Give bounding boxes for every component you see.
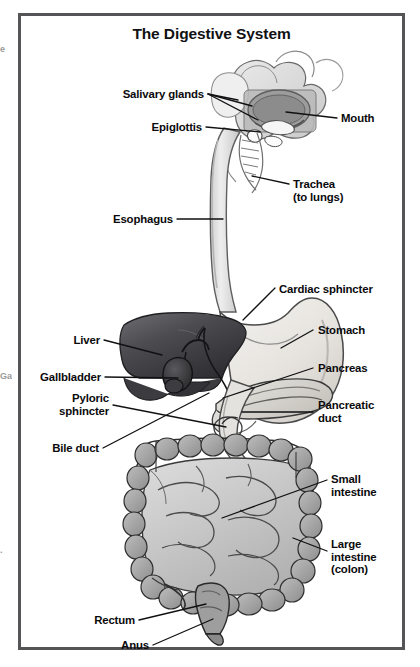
leader-cardiac-sphincter — [243, 288, 275, 320]
label-gallbladder: Gallbladder — [22, 371, 101, 384]
label-rectum: Rectum — [80, 614, 135, 627]
leader-anus — [153, 619, 213, 645]
label-stomach: Stomach — [318, 324, 388, 337]
digestive-system-figure: e Ga . The Digestive System — [0, 0, 420, 667]
label-trachea: Trachea (to lungs) — [293, 178, 377, 203]
label-epiglottis: Epiglottis — [116, 121, 202, 134]
label-anus: Anus — [110, 639, 149, 652]
label-salivary-glands: Salivary glands — [96, 88, 204, 101]
organ-small-intestine — [142, 458, 315, 595]
organ-rectum — [195, 583, 229, 634]
label-pancreatic-duct: Pancreatic duct — [318, 399, 400, 424]
label-pancreas: Pancreas — [318, 362, 390, 375]
label-small-intestine: Small intestine — [331, 473, 407, 498]
label-esophagus: Esophagus — [95, 213, 173, 226]
label-large-intestine: Large intestine (colon) — [331, 538, 407, 576]
label-liver: Liver — [52, 334, 100, 347]
leader-pyloric-sphincter — [113, 405, 226, 427]
label-bile-duct: Bile duct — [36, 442, 99, 455]
label-cardiac-sphincter: Cardiac sphincter — [279, 283, 399, 296]
label-pyloric-sphincter: Pyloric sphincter — [28, 392, 109, 417]
label-mouth: Mouth — [341, 112, 401, 125]
organ-esophagus — [210, 128, 240, 312]
organ-anus — [206, 634, 223, 645]
